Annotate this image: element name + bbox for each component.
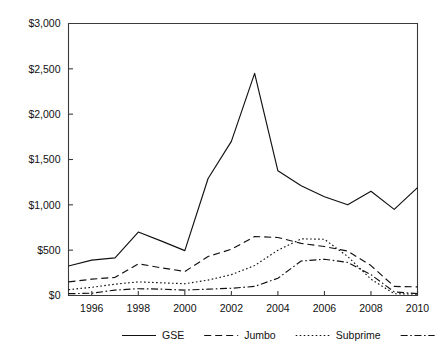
y-axis-label: $1,000 (28, 199, 60, 211)
y-axis-label: $2,000 (28, 108, 60, 120)
x-axis-label: 2002 (220, 302, 244, 314)
legend-label-jumbo: Jumbo (244, 329, 276, 341)
x-axis-label: 2006 (313, 302, 337, 314)
series-line-jumbo (69, 237, 418, 287)
chart-canvas: $0$500$1,000$1,500$2,000$2,500$3,0001996… (0, 0, 440, 358)
legend-label-gse: GSE (162, 329, 184, 341)
y-axis-label: $1,500 (28, 153, 60, 165)
x-axis-label: 2004 (266, 302, 290, 314)
y-axis-label: $3,000 (28, 17, 60, 29)
mortgage-originations-chart: $0$500$1,000$1,500$2,000$2,500$3,0001996… (0, 0, 440, 358)
x-axis-label: 1998 (127, 302, 151, 314)
x-axis-label: 1996 (80, 302, 104, 314)
plot-frame (69, 24, 418, 296)
y-axis-label: $2,500 (28, 63, 60, 75)
series-line-alt-a (69, 259, 418, 293)
x-axis-label: 2000 (173, 302, 197, 314)
series-line-gse (69, 73, 418, 266)
x-axis-label: 2010 (406, 302, 430, 314)
x-axis-label: 2008 (359, 302, 383, 314)
y-axis-label: $500 (37, 244, 61, 256)
y-axis-label: $0 (49, 289, 61, 301)
legend-label-subprime: Subprime (336, 329, 381, 341)
series-line-subprime (69, 239, 418, 294)
